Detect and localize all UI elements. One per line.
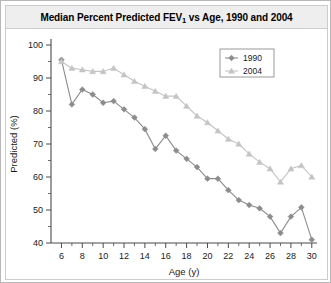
y-tick-label: 40 <box>33 238 43 248</box>
x-tick-label: 22 <box>223 251 233 261</box>
chart-title-band: Median Percent Predicted FEV1 vs Age, 19… <box>5 5 328 29</box>
legend-label-1990: 1990 <box>243 53 262 63</box>
x-tick-label: 30 <box>307 251 317 261</box>
y-tick-label: 80 <box>33 106 43 116</box>
data-point <box>298 163 304 168</box>
x-tick-label: 20 <box>202 251 212 261</box>
data-series-layer <box>58 57 314 243</box>
chart-figure: Median Percent Predicted FEV1 vs Age, 19… <box>0 0 331 283</box>
chart-legend: 19902004 <box>220 49 274 77</box>
x-tick-label: 8 <box>80 251 85 261</box>
data-point <box>267 166 273 171</box>
line-chart: 405060708090100 681012141618202224262830… <box>6 29 327 278</box>
series-line-1990 <box>61 60 311 240</box>
x-tick-label: 26 <box>265 251 275 261</box>
y-tick-label: 70 <box>33 139 43 149</box>
data-point <box>131 78 137 83</box>
y-tick-label: 90 <box>33 73 43 83</box>
x-tick-label: 24 <box>244 251 254 261</box>
x-axis-title: Age (y) <box>169 266 200 277</box>
x-tick-label: 12 <box>119 251 129 261</box>
x-tick-label: 16 <box>161 251 171 261</box>
y-axis-title: Predicted (%) <box>8 115 19 173</box>
series-1990 <box>59 57 315 243</box>
data-point <box>204 120 210 125</box>
x-tick-label: 6 <box>59 251 64 261</box>
y-tick-label: 100 <box>28 40 43 50</box>
series-2004 <box>58 59 314 185</box>
chart-title-subscript: 1 <box>182 16 186 25</box>
data-point <box>69 65 75 70</box>
data-point <box>278 230 284 236</box>
data-point <box>142 83 148 88</box>
legend-label-2004: 2004 <box>243 66 262 76</box>
data-point <box>111 65 117 70</box>
y-tick-label: 60 <box>33 172 43 182</box>
x-tick-label: 18 <box>182 251 192 261</box>
data-point <box>246 202 252 208</box>
chart-title-suffix: vs Age, 1990 and 2004 <box>186 12 292 23</box>
series-line-2004 <box>61 62 311 182</box>
y-axis: 405060708090100 <box>28 39 51 248</box>
plot-frame: 405060708090100 681012141618202224262830… <box>5 29 328 280</box>
x-tick-label: 10 <box>98 251 108 261</box>
data-point <box>152 88 158 93</box>
data-point <box>236 141 242 146</box>
data-point <box>121 72 127 77</box>
y-tick-label: 50 <box>33 205 43 215</box>
x-axis: 681012141618202224262830 <box>51 243 317 261</box>
data-point <box>309 237 315 243</box>
x-tick-label: 28 <box>286 251 296 261</box>
x-tick-label: 14 <box>140 251 150 261</box>
page-title: Median Percent Predicted FEV1 vs Age, 19… <box>40 12 292 23</box>
chart-title-prefix: Median Percent Predicted FEV <box>40 12 182 23</box>
